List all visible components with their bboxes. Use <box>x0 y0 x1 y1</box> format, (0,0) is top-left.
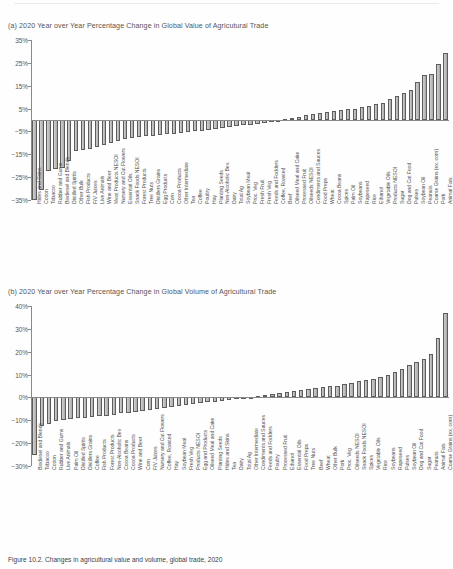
x-tick-label: Tobacco <box>44 451 50 470</box>
bar <box>381 103 385 120</box>
x-tick-label: Soybean Meal <box>181 438 187 470</box>
x-tick-label: Snack Foods NESOI <box>361 423 367 470</box>
figure-page: (a) 2020 Year over Year Percentage Chang… <box>0 0 453 569</box>
bar <box>76 397 80 418</box>
x-tick-label: Cotton <box>51 455 57 470</box>
bar <box>220 120 224 128</box>
x-tick-label: Live Animals <box>65 442 71 470</box>
x-tick-label: Spices <box>343 189 349 204</box>
y-tick-label: 15% <box>15 82 28 89</box>
x-tick-label: Rapeseed <box>364 181 370 204</box>
bar <box>83 397 87 418</box>
bar <box>97 397 101 416</box>
bar <box>179 120 183 133</box>
bar <box>172 120 176 134</box>
y-tick <box>28 466 31 467</box>
x-tick-label: Total Ag <box>246 452 252 470</box>
x-tick-label: Rubber and Gums <box>58 429 64 470</box>
bar <box>436 338 440 397</box>
bar <box>193 120 197 131</box>
x-tick-label: Dairy <box>231 192 237 204</box>
bar <box>443 53 447 120</box>
x-tick-label: Egg Products <box>162 174 168 204</box>
panel-a: (a) 2020 Year over Year Percentage Chang… <box>0 22 453 280</box>
x-tick-label: Vegetable Oils <box>375 438 381 470</box>
bar <box>126 397 130 412</box>
bar <box>414 362 418 397</box>
bar <box>388 99 392 120</box>
x-tick-label: Forest Products <box>109 434 115 470</box>
x-tick-label: Poultry <box>204 188 210 204</box>
x-tick-label: Products NESOI <box>392 167 398 204</box>
x-tick-label: Coffee <box>94 455 100 470</box>
bar <box>155 397 159 408</box>
bar <box>112 397 116 414</box>
y-tick-label: 20% <box>15 348 28 355</box>
top-rule <box>14 3 439 4</box>
bar <box>213 120 217 129</box>
x-tick-label: Cocoa Beans <box>123 440 129 470</box>
bar <box>342 384 346 397</box>
bar <box>306 389 310 397</box>
x-tick-label: Distillers Grains <box>87 435 93 470</box>
bar <box>40 397 44 426</box>
x-tick-label: Coarse Grains (ex. corn) <box>447 415 453 470</box>
bar <box>357 381 361 397</box>
x-tick-label: Meat Products NESOI <box>113 154 119 204</box>
bar <box>367 106 371 120</box>
bar <box>429 74 433 120</box>
x-tick-label: Fresh Veg <box>266 181 272 204</box>
x-tick-label: Food Preps <box>303 444 309 470</box>
bar <box>74 120 78 151</box>
bar <box>349 383 353 398</box>
bar <box>313 388 317 397</box>
x-tick-label: Condiments and Sauces <box>260 415 266 470</box>
bar <box>67 120 71 161</box>
x-tick-label: Food Preps <box>322 178 328 204</box>
x-tick-label: Nursery and Cut Flowers <box>159 414 165 470</box>
x-tick-label: Corn <box>169 193 175 204</box>
bar <box>378 377 382 398</box>
bar <box>409 90 413 120</box>
bar <box>422 75 426 120</box>
panel-a-title: (a) 2020 Year over Year Percentage Chang… <box>0 22 453 30</box>
x-tick-label: Coarse Grains (ex. corn) <box>433 149 439 204</box>
figure-caption: Figure 10.2. Changes in agricultural val… <box>8 556 445 565</box>
x-tick-label: Forest Products <box>141 168 147 204</box>
x-tick-label: Egg and Products <box>202 430 208 470</box>
x-tick-label: Soybean Meal <box>245 172 251 204</box>
x-tick-label: Soybeans <box>390 448 396 470</box>
bar <box>102 120 106 145</box>
zero-baseline <box>31 120 449 121</box>
bar <box>206 120 210 130</box>
x-tick-label: Dairy <box>238 458 244 470</box>
x-tick-label: Rice <box>382 460 388 470</box>
x-tick-label: Hides and Skins <box>36 168 42 204</box>
x-tick-label: Condiments and Sauces <box>315 149 321 204</box>
x-tick-label: Nursery and Cut Flowers <box>120 148 126 204</box>
bar <box>61 397 65 420</box>
x-tick-label: Sugar <box>426 457 432 470</box>
bar <box>186 120 190 132</box>
x-tick-label: Biodiesel and Blends <box>64 157 70 204</box>
bar <box>436 64 440 120</box>
y-tick-label: 40% <box>15 303 28 310</box>
x-tick-label: Animal Fats <box>440 443 446 470</box>
x-tick-label: Coffee, Roasted <box>280 168 286 204</box>
x-tick-label: Essential Oils <box>127 174 133 204</box>
x-tick-label: Beef <box>318 460 324 470</box>
bar <box>400 369 404 398</box>
x-tick-label: Coffee, Roasted <box>166 434 172 470</box>
y-tick-label: −15% <box>11 151 28 158</box>
y-tick-label: −5% <box>15 128 28 135</box>
x-tick-label: Pulses <box>413 189 419 204</box>
bar <box>88 120 92 149</box>
x-tick-label: Distilled Spirits <box>71 171 77 204</box>
x-tick-label: Essential Oils <box>296 440 302 470</box>
y-axis-line <box>31 306 32 466</box>
x-tick-label: Fresh Fruit <box>259 180 265 204</box>
bar <box>407 365 411 397</box>
bar <box>169 397 173 407</box>
y-tick-label: 25% <box>15 59 28 66</box>
bar <box>116 120 120 141</box>
